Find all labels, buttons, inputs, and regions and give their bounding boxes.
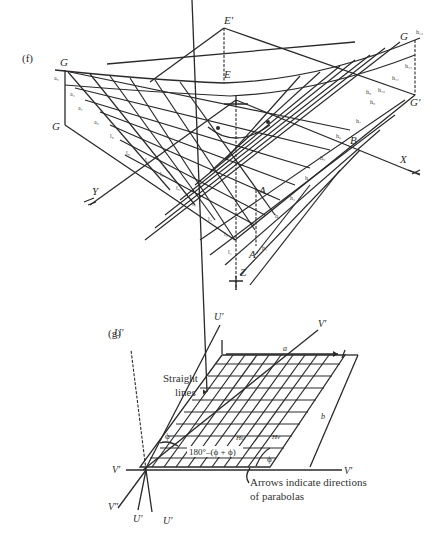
x-axis-marker-icon xyxy=(408,170,420,174)
label-b: B xyxy=(350,134,357,146)
svg-text:a₁: a₁ xyxy=(78,105,83,111)
svg-text:l₂: l₂ xyxy=(224,231,228,237)
arrows-note-line-2: of parabolas xyxy=(250,490,304,502)
svg-text:l₁: l₁ xyxy=(228,249,232,255)
label-e: E xyxy=(223,68,231,80)
label-v-double: V″ xyxy=(108,501,119,512)
diagram-canvas: (f) xyxy=(0,0,443,542)
label-u-top-mid: U′ xyxy=(214,311,224,322)
arrow-right-icon xyxy=(333,351,338,357)
svg-text:h₈: h₈ xyxy=(370,99,375,105)
arc-point-left xyxy=(216,126,220,130)
svg-text:a₃: a₃ xyxy=(70,91,75,97)
z-axis-marker-icon xyxy=(229,276,243,290)
label-dim-a: a xyxy=(283,344,287,353)
label-e-prime: E′ xyxy=(223,14,234,26)
svg-text:l₆: l₆ xyxy=(160,171,164,177)
svg-text:h₅: h₅ xyxy=(320,155,325,161)
svg-text:l₄: l₄ xyxy=(192,201,196,207)
svg-text:l₅: l₅ xyxy=(176,185,180,191)
edge-e-prime-g-prime xyxy=(224,28,415,95)
u-axis-left-lower xyxy=(146,470,152,512)
right-edge-ticks: h₁₃ h₁₂ h₁₁ h₁₀ h₉ h₈ h₇ h₆ h₅ h₄ h₃ h₂ … xyxy=(262,29,423,251)
arrows-note-line-1: Arrows indicate directions xyxy=(250,476,367,488)
u-axis-left xyxy=(131,350,146,470)
origin-cross-icon xyxy=(224,95,248,105)
label-a: A xyxy=(258,184,266,196)
svg-text:l₃: l₃ xyxy=(208,216,212,222)
label-a-prime: A′ xyxy=(248,248,259,260)
svg-text:h₃: h₃ xyxy=(290,195,295,201)
panel-label-f: (f) xyxy=(22,52,33,65)
label-phi: ϕ xyxy=(165,431,170,441)
svg-text:h₁₃: h₁₃ xyxy=(416,29,423,35)
svg-text:h₁₀: h₁₀ xyxy=(378,87,385,93)
arc-point-right xyxy=(266,120,270,124)
straight-lines-pointer xyxy=(192,0,207,392)
svg-text:l₇: l₇ xyxy=(145,157,149,163)
svg-text:h₄: h₄ xyxy=(305,175,310,181)
svg-text:l₉: l₉ xyxy=(110,133,114,139)
label-u-top-left: U′ xyxy=(114,327,124,338)
svg-text:h₁₂: h₁₂ xyxy=(405,63,412,69)
label-hv: Hᴠ xyxy=(271,433,281,441)
label-hu: Hᴜ xyxy=(235,434,245,442)
label-dim-b: b xyxy=(321,412,325,421)
svg-text:h₉: h₉ xyxy=(366,89,371,95)
label-v-top-right: V′ xyxy=(318,318,327,329)
straight-lines-label-2: lines xyxy=(175,386,196,398)
svg-text:h₇: h₇ xyxy=(356,118,361,124)
label-g-top-right: G xyxy=(400,30,408,42)
label-v-right: V′ xyxy=(344,465,353,476)
svg-text:a₅: a₅ xyxy=(54,75,59,81)
svg-text:l₈: l₈ xyxy=(126,150,130,156)
label-u-bottom-right: U′ xyxy=(163,515,173,526)
label-supplement-angle: 180°–(ϕ + ϕ) xyxy=(189,447,236,457)
svg-text:h₆: h₆ xyxy=(336,133,341,139)
label-y-axis: Y xyxy=(92,185,100,197)
label-x-axis: X xyxy=(399,153,408,165)
label-u-bottom-left: U′ xyxy=(133,513,143,524)
figure-f: (f) xyxy=(22,14,423,290)
straight-lines-label-1: Straight xyxy=(163,372,198,384)
label-g-bottom-left: G xyxy=(52,120,60,132)
svg-text:h₁: h₁ xyxy=(262,245,267,251)
svg-text:h₂: h₂ xyxy=(275,213,280,219)
label-g-top-left: G xyxy=(60,56,68,68)
label-v-left: V′ xyxy=(112,464,121,475)
label-z-axis: Z xyxy=(240,266,247,278)
svg-text:a₀: a₀ xyxy=(94,119,99,125)
svg-text:h₁₁: h₁₁ xyxy=(392,75,399,81)
label-phi-right: ϕ xyxy=(267,454,272,464)
label-g-prime: G′ xyxy=(410,96,421,108)
